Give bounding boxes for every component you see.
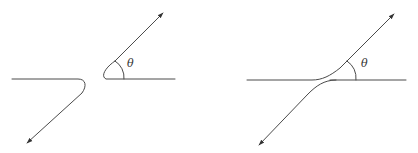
left-hook-curve: [12, 79, 85, 143]
right-panel: θ: [247, 14, 406, 145]
left-branch-diagonal: [115, 13, 163, 61]
left-branch-base-arc: [104, 61, 175, 79]
left-theta-label: θ: [127, 57, 134, 70]
right-theta-label: θ: [361, 57, 368, 70]
diagram-canvas: θ θ: [0, 0, 418, 153]
right-lower-curve: [259, 80, 336, 145]
left-angle-arc: [115, 61, 124, 79]
left-panel: θ: [12, 13, 175, 143]
right-angle-arc: [347, 61, 356, 80]
right-upper-curve: [247, 14, 394, 80]
